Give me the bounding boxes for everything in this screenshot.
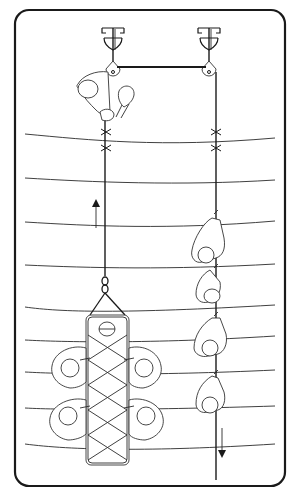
up-arrow-icon <box>92 199 100 228</box>
stretcher <box>86 315 129 465</box>
left-anchor-icon <box>102 28 124 64</box>
down-arrow-icon <box>218 428 226 458</box>
diagram-canvas <box>0 0 295 494</box>
rope-knots <box>101 129 221 151</box>
belayer-figure <box>77 72 134 121</box>
right-anchor-icon <box>198 28 220 64</box>
right-pulley-icon <box>202 61 216 76</box>
hauler-figures <box>192 210 227 413</box>
rescue-diagram <box>0 0 295 494</box>
stretcher-bridle <box>90 277 125 315</box>
